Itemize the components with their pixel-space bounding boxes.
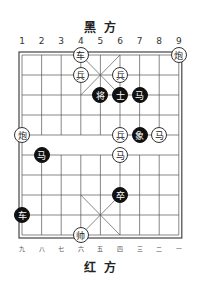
file-number: 三	[134, 244, 146, 253]
red-piece[interactable]: 炮	[171, 47, 187, 63]
black-piece[interactable]: 车	[14, 207, 30, 223]
red-piece[interactable]: 马	[112, 147, 128, 163]
red-piece[interactable]: 车	[73, 47, 89, 63]
red-piece[interactable]: 帅	[73, 227, 89, 243]
file-number: 七	[55, 244, 67, 253]
red-piece[interactable]: 兵	[112, 127, 128, 143]
xiangqi-board	[0, 0, 198, 285]
red-piece[interactable]: 炮	[14, 127, 30, 143]
black-piece[interactable]: 马	[132, 87, 148, 103]
file-number: 二	[153, 244, 165, 253]
black-piece[interactable]: 马	[34, 147, 50, 163]
red-piece[interactable]: 兵	[73, 67, 89, 83]
black-piece[interactable]: 士	[112, 87, 128, 103]
file-number: 四	[114, 244, 126, 253]
file-number: 五	[94, 244, 106, 253]
red-side-label: 红方	[84, 258, 124, 275]
red-piece[interactable]: 兵	[112, 67, 128, 83]
black-piece[interactable]: 卒	[112, 187, 128, 203]
file-number: 一	[173, 244, 185, 253]
black-piece[interactable]: 象	[132, 127, 148, 143]
file-number: 八	[36, 244, 48, 253]
file-number: 九	[16, 244, 28, 253]
file-number: 六	[75, 244, 87, 253]
